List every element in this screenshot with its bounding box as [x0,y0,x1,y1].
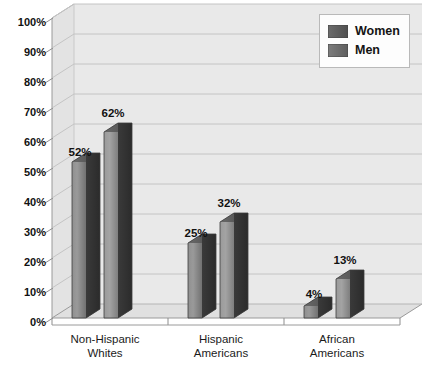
bar-label-women-hispanic-americans: 25% [176,227,216,239]
x-label-hispanic-americans-line2: Americans [166,346,276,360]
x-label-hispanic-americans: Hispanic Americans [166,332,276,360]
y-tick-20: 20% [6,257,46,268]
bar-label-women-non-hispanic-whites: 52% [60,146,100,158]
y-tick-40: 40% [6,197,46,208]
legend-item-women: Women [328,22,400,41]
x-label-non-hispanic-whites-line1: Non-Hispanic [50,332,160,346]
x-label-non-hispanic-whites: Non-Hispanic Whites [50,332,160,360]
y-tick-50: 50% [6,167,46,178]
legend-label-women: Women [355,25,400,38]
bar-men-african-americans [336,270,364,318]
x-label-african-americans-line2: Americans [282,346,392,360]
legend-label-men: Men [355,44,380,57]
x-label-non-hispanic-whites-line2: Whites [50,346,160,360]
legend: Women Men [319,14,410,68]
bar-men-non-hispanic-whites [104,123,132,318]
legend-item-men: Men [328,41,400,60]
bar-label-men-non-hispanic-whites: 62% [93,107,133,119]
y-tick-10: 10% [6,287,46,298]
y-tick-70: 70% [6,107,46,118]
bar-women-non-hispanic-whites [72,153,100,318]
bar-men-hispanic-americans [220,213,248,318]
x-axis-ticks [52,318,400,325]
bar-label-men-african-americans: 13% [325,254,365,266]
legend-swatch-men-icon [328,44,348,57]
y-tick-0: 0% [6,317,46,328]
y-tick-90: 90% [6,47,46,58]
x-label-hispanic-americans-line1: Hispanic [166,332,276,346]
bar-chart: Percentage Who Voted for Donald Trump in… [0,0,428,370]
bar-label-women-african-americans: 4% [294,288,334,300]
y-tick-100: 100% [6,17,46,28]
legend-swatch-women-icon [328,25,348,38]
y-tick-80: 80% [6,77,46,88]
y-tick-30: 30% [6,227,46,238]
x-label-african-americans: African Americans [282,332,392,360]
x-label-african-americans-line1: African [282,332,392,346]
bar-label-men-hispanic-americans: 32% [209,197,249,209]
y-axis-tick-labels: 100% 90% 80% 70% 60% 50% 40% 30% 20% 10%… [0,0,46,370]
y-tick-60: 60% [6,137,46,148]
bar-women-hispanic-americans [188,234,216,318]
